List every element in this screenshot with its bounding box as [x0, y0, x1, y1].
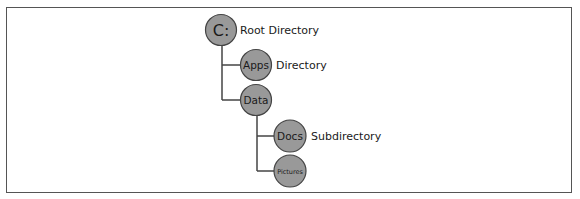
node-apps: Apps Directory	[241, 50, 328, 81]
node-label: Docs	[277, 130, 303, 142]
node-pictures: Pictures	[274, 155, 306, 187]
node-description: Directory	[276, 59, 327, 72]
directory-tree-diagram: C: Root Directory Apps Directory Data Do…	[0, 0, 580, 199]
node-description: Root Directory	[240, 24, 320, 37]
node-label: Pictures	[277, 168, 303, 176]
node-docs: Docs Subdirectory	[274, 120, 382, 152]
node-data: Data	[241, 85, 272, 116]
node-label: Data	[243, 94, 268, 106]
node-root-c: C: Root Directory	[206, 15, 320, 46]
node-label: Apps	[243, 59, 269, 71]
node-description: Subdirectory	[311, 130, 382, 143]
node-label: C:	[213, 21, 230, 40]
